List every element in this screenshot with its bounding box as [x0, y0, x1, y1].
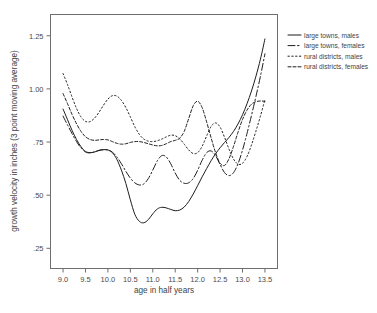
x-tick-label: 12.0: [190, 275, 205, 284]
x-tick-label: 10.5: [123, 275, 138, 284]
y-tick-label: .25: [33, 244, 43, 253]
y-tick-label: 1.25: [29, 32, 44, 41]
x-tick-label: 9.5: [80, 275, 90, 284]
x-tick-label: 11.0: [146, 275, 160, 284]
chart-container: 9.09.510.010.511.011.512.012.513.013.5 .…: [0, 0, 377, 313]
x-tick-label: 13.5: [258, 275, 273, 284]
x-tick-label: 12.5: [213, 275, 228, 284]
legend-label-3: rural districts, females: [304, 63, 369, 70]
series-line-0: [63, 39, 265, 223]
x-axis-title: age in half years: [134, 286, 194, 295]
x-tick-label: 10.0: [101, 275, 116, 284]
y-tick-label: .50: [33, 191, 43, 200]
x-tick-label: 13.0: [235, 275, 250, 284]
growth-velocity-line-chart: 9.09.510.010.511.011.512.012.513.013.5 .…: [0, 0, 377, 313]
x-tick-label: 11.5: [168, 275, 182, 284]
chart-legend: large towns, maleslarge towns, femalesru…: [288, 32, 369, 71]
plot-frame: [51, 15, 278, 269]
y-axis-ticks: .25.50.751.001.25: [29, 32, 51, 254]
x-tick-label: 9.0: [58, 275, 68, 284]
legend-label-0: large towns, males: [304, 32, 360, 40]
y-axis-title: growth velocity in inches (3 point movin…: [10, 50, 19, 232]
x-axis-ticks: 9.09.510.010.511.011.512.012.513.013.5: [58, 269, 272, 284]
y-tick-label: 1.00: [29, 85, 44, 94]
series-lines: [63, 39, 265, 223]
series-line-2: [63, 74, 265, 165]
y-tick-label: .75: [33, 138, 43, 147]
legend-label-2: rural districts, males: [304, 53, 363, 60]
legend-label-1: large towns, females: [304, 42, 365, 50]
